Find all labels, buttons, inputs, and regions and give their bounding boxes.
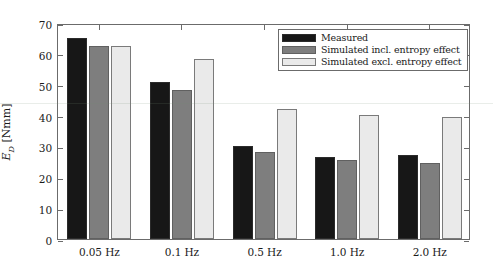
y-axis-tick-label: 0 (45, 235, 52, 247)
x-axis-tick-label: 0.1 Hz (165, 246, 199, 258)
y-axis-tick-mark (58, 55, 63, 56)
bar-sim-excl (277, 109, 297, 239)
legend-label: Simulated excl. entropy effect (321, 57, 462, 67)
x-axis-tick-mark-top (99, 25, 100, 30)
y-axis-tick-mark (58, 179, 63, 180)
bar-measured (150, 82, 170, 239)
legend-label: Simulated incl. entropy effect (321, 45, 460, 55)
y-axis-tick-label: 40 (39, 112, 52, 124)
chart-legend: MeasuredSimulated incl. entropy effectSi… (278, 29, 468, 71)
x-axis-tick-label: 0.05 Hz (79, 246, 120, 258)
y-axis-tick-mark-right (464, 210, 469, 211)
y-axis-subscript: D (7, 146, 16, 152)
x-axis-tick-label: 1.0 Hz (330, 246, 364, 258)
y-axis-tick-label: 60 (39, 50, 52, 62)
legend-item: Simulated incl. entropy effect (282, 44, 464, 56)
y-axis-tick-label: 20 (39, 173, 52, 185)
legend-label: Measured (321, 33, 368, 43)
y-axis-tick-label: 10 (39, 204, 52, 216)
bar-sim-incl (172, 90, 192, 239)
figure-canvas: ED [Nmm] 010203040506070 0.05 Hz0.1 Hz0.… (0, 0, 493, 270)
bar-sim-excl (111, 46, 131, 239)
y-axis-units: [Nmm] (0, 103, 13, 142)
bar-sim-incl (255, 152, 275, 239)
bar-sim-excl (194, 59, 214, 239)
bar-measured (67, 38, 87, 239)
x-axis-tick-mark-top (264, 25, 265, 30)
y-axis-tick-mark-right (464, 148, 469, 149)
x-axis-tick-label: 0.5 Hz (247, 246, 281, 258)
y-axis-symbol: E (0, 152, 13, 160)
bar-sim-excl (442, 117, 462, 239)
bar-sim-incl (89, 46, 109, 239)
y-axis-tick-mark (58, 210, 63, 211)
x-axis-tick-label: 2.0 Hz (413, 246, 447, 258)
y-axis-tick-mark (58, 25, 63, 26)
y-axis-tick-label: 30 (39, 142, 52, 154)
y-axis-tick-mark-right (464, 241, 469, 242)
y-axis-tick-mark-right (464, 25, 469, 26)
y-axis-label: ED [Nmm] (0, 103, 15, 160)
y-axis-tick-mark (58, 86, 63, 87)
bar-measured (315, 157, 335, 239)
legend-item: Simulated excl. entropy effect (282, 56, 464, 68)
y-axis-tick-label: 50 (39, 81, 52, 93)
y-axis-tick-mark-right (464, 117, 469, 118)
legend-swatch-measured (282, 34, 316, 42)
y-axis-tick-label: 70 (39, 19, 52, 31)
y-axis-tick-mark-right (464, 86, 469, 87)
y-axis-tick-mark (58, 117, 63, 118)
x-axis-tick-mark-top (181, 25, 182, 30)
y-axis-tick-mark (58, 241, 63, 242)
bar-sim-excl (359, 115, 379, 239)
legend-item: Measured (282, 32, 464, 44)
legend-swatch-sim-excl (282, 58, 316, 66)
legend-swatch-sim-incl (282, 46, 316, 54)
y-axis-tick-mark (58, 148, 63, 149)
bar-measured (233, 146, 253, 239)
bar-sim-incl (420, 163, 440, 239)
bar-measured (398, 155, 418, 239)
y-axis-tick-mark-right (464, 179, 469, 180)
bar-sim-incl (337, 160, 357, 239)
